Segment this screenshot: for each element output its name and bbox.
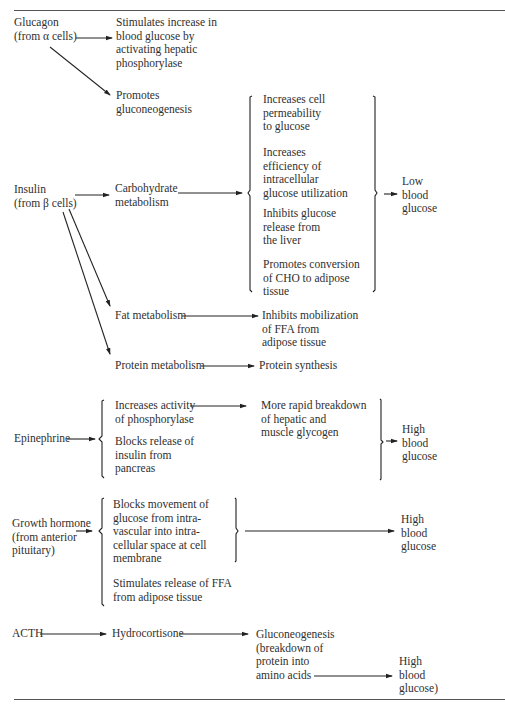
- glucagon-effect-gluconeogenesis: Promotes gluconeogenesis: [116, 89, 192, 116]
- glucagon-effect-phosphorylase: Stimulates increase in blood glucose by …: [116, 16, 217, 70]
- insulin-carb-metabolism: Carbohydrate metabolism: [115, 182, 178, 209]
- growth-hormone-effect-ffa: Stimulates release of FFA from adipose t…: [113, 577, 232, 604]
- growth-hormone-result-high-blood-glucose: High blood glucose: [401, 513, 436, 554]
- acth-hydrocortisone: Hydrocortisone: [112, 627, 184, 641]
- insulin-carb-effect-liver: Inhibits glucose release from the liver: [263, 207, 336, 248]
- epinephrine-effect-phosphorylase: Increases activity of phosphorylase: [115, 399, 195, 426]
- acth-result-high-blood-glucose: High blood glucose): [399, 655, 438, 696]
- insulin-fat-effect: Inhibits mobilization of FFA from adipos…: [262, 309, 358, 350]
- insulin-label: Insulin (from β cells): [14, 183, 77, 210]
- glucagon-label: Glucagon (from α cells): [14, 16, 77, 43]
- insulin-carb-effect-adipose: Promotes conversion of CHO to adipose ti…: [263, 258, 360, 299]
- acth-label: ACTH: [12, 627, 43, 641]
- epinephrine-effect-glycogen-breakdown: More rapid breakdown of hepatic and musc…: [261, 399, 366, 440]
- growth-hormone-effect-glucose-block: Blocks movement of glucose from intra- v…: [113, 498, 209, 566]
- acth-gluconeogenesis: Gluconeogenesis (breakdown of protein in…: [256, 628, 335, 682]
- epinephrine-label: Epinephrine: [14, 432, 70, 446]
- insulin-carb-effect-permeability: Increases cell permeability to glucose: [263, 93, 325, 134]
- insulin-protein-metabolism: Protein metabolism: [115, 359, 205, 373]
- insulin-result-low-blood-glucose: Low blood glucose: [402, 175, 437, 216]
- insulin-fat-metabolism: Fat metabolism: [115, 309, 186, 323]
- growth-hormone-label: Growth hormone (from anterior pituitary): [12, 517, 91, 558]
- insulin-carb-effect-utilization: Increases efficiency of intracellular gl…: [263, 146, 348, 200]
- epinephrine-effect-insulin-block: Blocks release of insulin from pancreas: [115, 435, 194, 476]
- epinephrine-result-high-blood-glucose: High blood glucose: [402, 423, 437, 464]
- insulin-protein-effect: Protein synthesis: [259, 359, 337, 373]
- connector-lines: [0, 0, 505, 708]
